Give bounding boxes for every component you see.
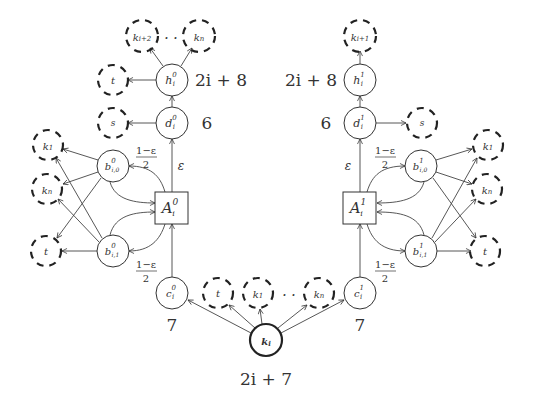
game-graph-diagram: ki+2 · · kn t h0i 2i + 8 s d0i 6 ε 1−ε 2…: [0, 0, 533, 401]
svg-text:1−ε: 1−ε: [375, 145, 395, 156]
svg-text:t: t: [483, 246, 488, 257]
svg-text:ki+1: ki+1: [351, 32, 370, 44]
svg-text:k1: k1: [483, 141, 494, 153]
svg-text:2: 2: [382, 159, 388, 170]
svg-text:s: s: [111, 118, 116, 128]
svg-text:2: 2: [143, 159, 149, 170]
svg-text:kn: kn: [314, 289, 325, 301]
left-subgraph: ki+2 · · kn t h0i 2i + 8 s d0i 6 ε 1−ε 2…: [31, 20, 247, 335]
svg-text:t: t: [216, 288, 221, 299]
weight-h-left: 2i + 8: [195, 70, 247, 90]
ellipsis-bottom: · ·: [282, 287, 295, 303]
svg-text:kn: kn: [42, 185, 53, 197]
bottom-subgraph: t k1 · · kn ki 2i + 7: [203, 278, 334, 389]
svg-text:2: 2: [143, 273, 149, 284]
edges: [56, 48, 477, 333]
weight-h-right: 2i + 8: [285, 70, 337, 90]
svg-text:1−ε: 1−ε: [136, 259, 156, 270]
epsilon-right: ε: [345, 159, 351, 173]
svg-text:k1: k1: [43, 141, 54, 153]
epsilon-left: ε: [178, 159, 184, 173]
weight-d-left: 6: [202, 113, 213, 133]
svg-text:1−ε: 1−ε: [136, 145, 156, 156]
weight-root: 2i + 7: [240, 369, 292, 389]
svg-text:t: t: [111, 75, 116, 86]
svg-text:1−ε: 1−ε: [375, 259, 395, 270]
svg-text:ki+2: ki+2: [133, 32, 152, 44]
svg-text:kn: kn: [194, 32, 205, 44]
svg-text:s: s: [420, 118, 425, 128]
svg-text:2: 2: [382, 273, 388, 284]
svg-text:kn: kn: [482, 185, 493, 197]
weight-c-left: 7: [167, 315, 178, 335]
weight-c-right: 7: [355, 315, 366, 335]
ellipsis: · ·: [164, 30, 177, 46]
svg-text:t: t: [44, 246, 49, 257]
weight-d-right: 6: [321, 113, 332, 133]
svg-text:k1: k1: [253, 289, 264, 301]
